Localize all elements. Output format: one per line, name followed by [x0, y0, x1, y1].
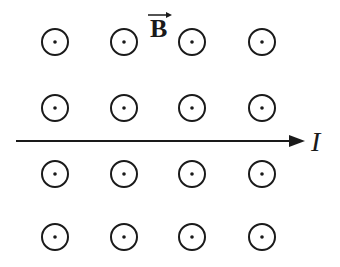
- field-out-of-page-icon: [42, 95, 68, 121]
- current-arrowhead-icon: [289, 135, 305, 147]
- magnetic-field-label: B: [150, 14, 167, 44]
- field-out-of-page-icon: [249, 95, 275, 121]
- field-out-of-page-icon: [179, 29, 205, 55]
- field-out-of-page-icon: [42, 29, 68, 55]
- field-out-of-page-icon: [111, 161, 137, 187]
- field-out-of-page-symbols: [42, 29, 275, 250]
- field-out-of-page-icon: [179, 224, 205, 250]
- field-out-of-page-icon: [179, 95, 205, 121]
- field-out-of-page-icon: [42, 224, 68, 250]
- current-label: I: [311, 126, 320, 158]
- field-out-of-page-icon: [111, 95, 137, 121]
- field-out-of-page-icon: [111, 29, 137, 55]
- field-diagram: [0, 0, 340, 267]
- current-wire: [16, 135, 305, 147]
- field-out-of-page-icon: [42, 161, 68, 187]
- field-out-of-page-icon: [249, 161, 275, 187]
- field-out-of-page-icon: [249, 224, 275, 250]
- field-out-of-page-icon: [111, 224, 137, 250]
- field-out-of-page-icon: [179, 161, 205, 187]
- field-out-of-page-icon: [249, 29, 275, 55]
